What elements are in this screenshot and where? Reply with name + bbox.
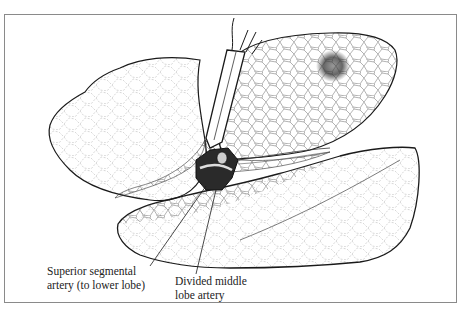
label-superior-segmental-artery: Superior segmental artery (to lower lobe… [47,264,145,292]
upper-lobe [49,58,206,201]
lesion-spot [316,50,350,82]
label-divided-middle-lobe-artery: Divided middle lobe artery [175,274,247,302]
